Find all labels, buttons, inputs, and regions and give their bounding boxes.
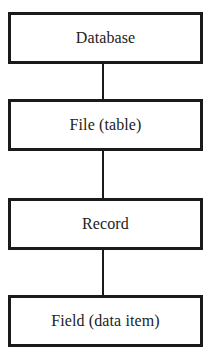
node-record-label: Record (82, 215, 129, 233)
data-hierarchy-diagram: Database File (table) Record Field (data… (0, 0, 220, 362)
node-file-label: File (table) (70, 116, 142, 134)
connector-record-field (102, 250, 104, 296)
node-record: Record (8, 198, 203, 250)
connector-database-file (102, 64, 104, 99)
node-file: File (table) (8, 99, 203, 151)
node-database: Database (8, 12, 203, 64)
node-field: Field (data item) (8, 295, 203, 347)
connector-file-record (102, 151, 104, 199)
node-database-label: Database (76, 29, 135, 47)
node-field-label: Field (data item) (51, 312, 159, 330)
